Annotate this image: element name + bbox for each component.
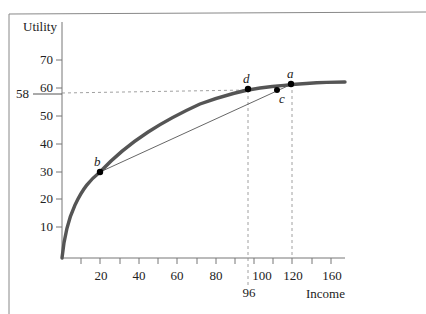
frame-top-border xyxy=(9,12,426,14)
point-b xyxy=(97,169,103,175)
point-a xyxy=(288,81,294,87)
y-label-58: 58 xyxy=(16,86,29,101)
x-tick-80: 80 xyxy=(210,268,223,283)
label-b: b xyxy=(94,154,101,169)
y-tick-20: 20 xyxy=(40,191,53,206)
utility-chart: 10 20 30 40 50 60 70 58 20 40 60 80 100 … xyxy=(0,0,426,314)
x-ticks xyxy=(81,258,331,264)
x-tick-160: 160 xyxy=(322,268,342,283)
x-tick-40: 40 xyxy=(133,268,146,283)
x-tick-60: 60 xyxy=(171,268,184,283)
y-tick-10: 10 xyxy=(40,219,53,234)
y-tick-30: 30 xyxy=(40,164,53,179)
hline-58-dashed xyxy=(62,90,248,93)
y-ticks xyxy=(56,60,62,227)
point-d xyxy=(245,86,251,92)
x-tick-20: 20 xyxy=(95,268,108,283)
label-a: a xyxy=(287,66,294,81)
y-tick-labels: 10 20 30 40 50 60 70 xyxy=(40,52,53,234)
y-tick-40: 40 xyxy=(40,136,53,151)
x-tick-labels: 20 40 60 80 100 120 160 xyxy=(95,268,342,283)
y-tick-50: 50 xyxy=(40,108,53,123)
y-tick-60: 60 xyxy=(40,80,53,95)
label-d: d xyxy=(243,71,250,86)
y-tick-70: 70 xyxy=(40,52,53,67)
x-tick-120: 120 xyxy=(283,268,303,283)
y-axis-title: Utility xyxy=(23,19,57,34)
x-axis-title: Income xyxy=(306,286,345,301)
chord-b-a xyxy=(100,84,292,172)
label-c: c xyxy=(279,91,285,106)
x-label-96: 96 xyxy=(243,285,257,300)
x-tick-100: 100 xyxy=(252,268,272,283)
